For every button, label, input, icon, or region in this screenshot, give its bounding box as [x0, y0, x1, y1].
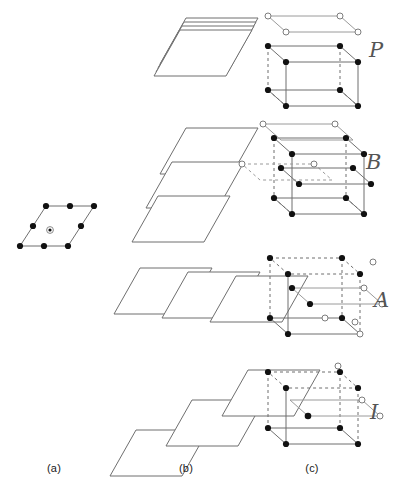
lattice-node-edge: [30, 223, 36, 229]
lattice-node-corner: [17, 243, 23, 249]
bravais-lattice-figure: P B A I (a) (b) (c): [0, 0, 418, 489]
translated-layer-row-3: [292, 259, 385, 325]
column-label-b: (b): [156, 462, 216, 474]
plane-stack-row-3: [114, 268, 308, 322]
centring-letter-row-3: A: [374, 288, 389, 312]
lattice-node-edge: [67, 203, 73, 209]
plane-stack-row-1: [154, 18, 258, 76]
translated-layer-row-1: [265, 13, 361, 35]
lattice-node-corner: [65, 243, 71, 249]
plane-stack-row-2: [132, 128, 258, 242]
column-label-c: (c): [282, 462, 342, 474]
lattice-node-corner: [43, 203, 49, 209]
lattice-node-edge: [41, 243, 47, 249]
lattice-node-corner: [91, 203, 97, 209]
centring-letter-row-4: I: [370, 400, 378, 424]
centring-letter-row-1: P: [369, 38, 383, 62]
unit-cell-row-2: [239, 121, 374, 217]
centring-letter-row-2: B: [366, 150, 381, 174]
lattice-node-edge: [78, 223, 84, 229]
plane-stack-row-4: [110, 370, 320, 476]
lattice-node-centre: [48, 228, 51, 231]
body-centre-node: [305, 413, 312, 420]
lattice-net-column-a: [17, 203, 97, 249]
figure-canvas: [0, 0, 418, 489]
unit-cell-row-1: [265, 13, 361, 109]
column-label-a: (a): [24, 462, 84, 474]
